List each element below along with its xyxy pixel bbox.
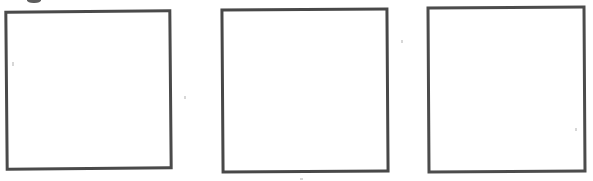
clipped-glyph-icon (27, 0, 41, 3)
scanned-page (0, 0, 593, 181)
answer-box-3-label (430, 9, 584, 171)
answer-box-1[interactable] (4, 9, 172, 170)
scan-speck-3 (401, 40, 403, 43)
scan-speck-4 (575, 128, 577, 131)
answer-box-1-label (7, 12, 169, 167)
scan-speck-2 (184, 96, 186, 99)
answer-box-2-label (223, 10, 386, 170)
answer-box-2[interactable] (220, 7, 389, 173)
answer-box-3[interactable] (426, 6, 586, 174)
scan-speck-1 (12, 62, 14, 66)
scan-speck-5 (300, 178, 303, 180)
